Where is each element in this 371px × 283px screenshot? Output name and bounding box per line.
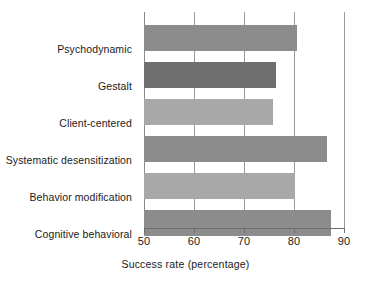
tick-mark-80 bbox=[294, 228, 295, 233]
gridline-90 bbox=[344, 12, 345, 228]
category-label-behavior-modification: Behavior modification bbox=[0, 191, 132, 203]
bar-gestalt bbox=[144, 62, 276, 88]
tick-mark-60 bbox=[194, 228, 195, 233]
tick-mark-50 bbox=[144, 228, 145, 233]
category-label-psychodynamic: Psychodynamic bbox=[0, 43, 132, 55]
category-label-systematic-desensitization: Systematic desensitization bbox=[0, 154, 132, 166]
bar-behavior-modification bbox=[144, 173, 295, 199]
category-label-client-centered: Client-centered bbox=[0, 117, 132, 129]
tick-label-80: 80 bbox=[274, 235, 314, 247]
tick-mark-70 bbox=[244, 228, 245, 233]
tick-label-60: 60 bbox=[174, 235, 214, 247]
category-label-cognitive-behavioral: Cognitive behavioral bbox=[0, 228, 132, 240]
tick-label-50: 50 bbox=[124, 235, 164, 247]
bar-chart: Psychodynamic Gestalt Client-centered Sy… bbox=[0, 0, 371, 283]
tick-label-90: 90 bbox=[324, 235, 364, 247]
category-label-gestalt: Gestalt bbox=[0, 80, 132, 92]
category-axis-labels: Psychodynamic Gestalt Client-centered Sy… bbox=[0, 12, 138, 228]
x-axis-title: Success rate (percentage) bbox=[0, 258, 371, 270]
plot-area bbox=[144, 12, 344, 228]
bar-client-centered bbox=[144, 99, 273, 125]
bar-systematic-desensitization bbox=[144, 136, 327, 162]
tick-mark-90 bbox=[344, 228, 345, 233]
bar-cognitive-behavioral bbox=[144, 210, 331, 236]
bar-psychodynamic bbox=[144, 25, 297, 51]
tick-label-70: 70 bbox=[224, 235, 264, 247]
